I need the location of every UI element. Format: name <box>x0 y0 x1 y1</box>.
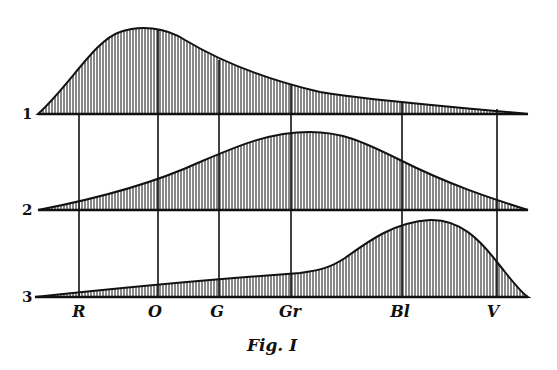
band-label-gr: Gr <box>279 302 301 321</box>
curve-1 <box>38 28 528 114</box>
band-label-r: R <box>72 302 85 321</box>
figure-caption: Fig. I <box>247 335 297 355</box>
band-label-v: V <box>487 302 499 321</box>
band-label-bl: Bl <box>390 302 410 321</box>
curve-label-3: 3 <box>22 288 32 306</box>
curve-label-2: 2 <box>22 201 32 219</box>
figure: 1 2 3 R O G Gr Bl V Fig. I <box>0 0 557 370</box>
curve-3 <box>35 220 528 297</box>
curve-2 <box>38 132 528 210</box>
curve-label-1: 1 <box>22 105 32 123</box>
band-label-o: O <box>148 302 162 321</box>
band-label-g: G <box>210 302 224 321</box>
